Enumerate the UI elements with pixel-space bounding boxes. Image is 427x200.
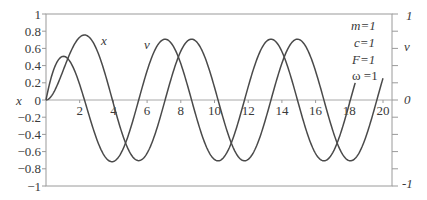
param-m: m=1 bbox=[351, 18, 376, 33]
y-tick-label-left: −0.6 bbox=[17, 144, 41, 159]
y-tick-label-left: −1 bbox=[27, 179, 41, 194]
y-tick-label-left: 0.4 bbox=[25, 58, 42, 73]
y-tick-label-left: −0.4 bbox=[17, 127, 41, 142]
param-omega: ω =1 bbox=[352, 68, 378, 83]
x-tick-label: 2 bbox=[76, 103, 83, 118]
x-tick-label: 16 bbox=[309, 103, 323, 118]
series-label-x: x bbox=[100, 33, 107, 48]
line-chart: 10.80.60.40.20−0.2−0.4−0.6−0.8−124681012… bbox=[0, 0, 427, 200]
x-tick-label: 8 bbox=[178, 103, 185, 118]
right-axis-zero-label: 0 bbox=[404, 92, 411, 107]
series-x-line bbox=[46, 35, 383, 161]
y-tick-label-left: 0 bbox=[35, 93, 42, 108]
param-c: c=1 bbox=[354, 35, 375, 50]
y-tick-label-left: 0.8 bbox=[25, 24, 41, 39]
right-axis-top-label: 1 bbox=[406, 8, 413, 23]
curves bbox=[46, 35, 383, 162]
y-axis-left-label: x bbox=[15, 93, 22, 108]
right-axis-bottom-label: -1 bbox=[402, 176, 413, 191]
y-tick-label-left: 0.2 bbox=[25, 75, 41, 90]
parameter-legend: m=1 c=1 F=1 ω =1 bbox=[351, 18, 378, 83]
y-tick-label-left: 1 bbox=[35, 7, 42, 22]
right-axis-name: v bbox=[404, 39, 410, 54]
x-tick-label: 14 bbox=[275, 103, 289, 118]
y-tick-label-left: 0.6 bbox=[25, 41, 42, 56]
series-label-v: v bbox=[144, 37, 150, 52]
param-F: F=1 bbox=[351, 52, 375, 67]
y-tick-label-left: −0.8 bbox=[17, 161, 41, 176]
x-tick-label: 20 bbox=[377, 103, 390, 118]
right-axis-labels: 1 v 0 -1 bbox=[402, 8, 413, 191]
y-tick-label-left: −0.2 bbox=[17, 110, 41, 125]
x-tick-label: 6 bbox=[144, 103, 151, 118]
